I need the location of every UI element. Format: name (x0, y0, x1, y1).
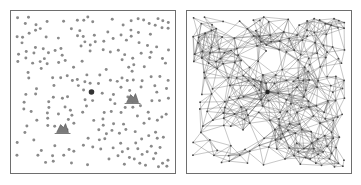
graph-node (341, 62, 343, 64)
node-dot (159, 146, 162, 149)
graph-node (309, 64, 311, 66)
node-dot (119, 142, 122, 145)
node-dot (46, 112, 49, 115)
node-dot (47, 100, 50, 103)
node-dot (70, 27, 73, 30)
node-dot (167, 97, 170, 100)
node-dot (39, 27, 42, 30)
graph-edge (201, 21, 223, 23)
graph-node (270, 41, 272, 43)
node-dot (147, 134, 150, 137)
node-dot (141, 153, 144, 156)
node-dot (137, 31, 140, 34)
graph-node (234, 62, 236, 64)
graph-node (201, 94, 203, 96)
graph-node (201, 51, 203, 53)
graph-edge (290, 104, 291, 124)
graph-node (308, 57, 310, 59)
graph-node (293, 155, 295, 157)
graph-node (260, 41, 262, 43)
node-dot (140, 138, 143, 141)
graph-node (293, 49, 295, 51)
node-dot (70, 114, 73, 117)
graph-node (277, 92, 279, 94)
graph-edge (333, 80, 344, 92)
graph-node (222, 63, 224, 65)
graph-node (255, 30, 257, 32)
graph-node (301, 129, 303, 131)
node-dot (62, 20, 65, 23)
graph-node (239, 154, 241, 156)
node-dot (84, 98, 87, 101)
node-dot (157, 17, 160, 20)
graph-node (269, 34, 271, 36)
node-dot (35, 87, 38, 90)
node-dot (76, 34, 79, 37)
node-dot (134, 130, 137, 133)
node-dot (97, 82, 100, 85)
graph-edge (281, 139, 289, 148)
node-dot (109, 50, 112, 53)
node-dot (70, 162, 73, 165)
graph-node (278, 118, 280, 120)
graph-node (343, 27, 345, 29)
graph-node (332, 46, 334, 48)
node-dot (82, 19, 85, 22)
node-dot (155, 91, 158, 94)
node-dot (46, 20, 49, 23)
graph-edge (193, 132, 201, 142)
graph-edge (205, 17, 212, 30)
graph-node (325, 57, 327, 59)
node-dot (59, 76, 62, 79)
node-dot (66, 95, 69, 98)
node-dot (140, 52, 143, 55)
node-dot (106, 30, 109, 33)
graph-node (323, 111, 325, 113)
graph-node (296, 112, 298, 114)
node-dot (15, 154, 18, 157)
graph-node (236, 48, 238, 50)
node-dot (82, 144, 85, 147)
node-dot (132, 63, 135, 66)
node-dot (154, 24, 157, 27)
node-dot (83, 80, 86, 83)
node-dot (23, 101, 26, 104)
graph-node (230, 145, 232, 147)
node-dot (167, 21, 170, 24)
node-dot (16, 141, 19, 144)
node-dot (89, 49, 92, 52)
node-dot (52, 84, 55, 87)
graph-node (211, 24, 213, 26)
node-dot (91, 146, 94, 149)
node-dot (117, 154, 120, 157)
node-dot (123, 163, 126, 166)
graph-edge (243, 67, 249, 75)
node-dot (140, 86, 143, 89)
hub-node (265, 90, 269, 94)
graph-node (228, 96, 230, 98)
graph-node (292, 80, 294, 82)
graph-node (335, 76, 337, 78)
graph-edge (205, 17, 224, 21)
node-dot (91, 20, 94, 23)
graph-node (192, 154, 194, 156)
graph-node (326, 76, 328, 78)
node-dot (131, 106, 134, 109)
graph-node (290, 103, 292, 105)
node-dot (148, 22, 151, 25)
graph-edge (222, 161, 230, 162)
node-dot (78, 29, 81, 32)
node-dot (59, 47, 62, 50)
graph-node (304, 66, 306, 68)
graph-node (246, 28, 248, 30)
graph-node (315, 162, 317, 164)
graph-node (305, 90, 307, 92)
node-dot (167, 79, 170, 82)
graph-node (297, 151, 299, 153)
graph-node (201, 57, 203, 59)
node-dot (156, 119, 159, 122)
node-dot (138, 162, 141, 165)
node-dot (143, 65, 146, 68)
graph-node (269, 119, 271, 121)
graph-node (305, 157, 307, 159)
